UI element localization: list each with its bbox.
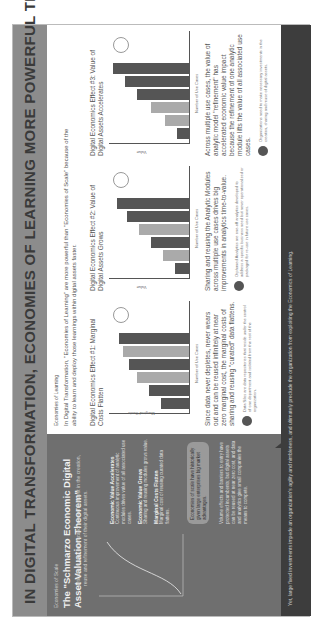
title-band: IN DIGITAL TRANSFORMATION, ECONOMIES OF … [13,25,47,616]
economies-of-scale-panel: Economies of Scale The "Schmarzo Economi… [47,434,311,616]
learning-kicker: Economies of Learning [53,28,59,426]
value-grows-chart: Value Number of Use Cases [109,166,190,279]
rotated-document-page: IN DIGITAL TRANSFORMATION, ECONOMIES OF … [12,24,310,617]
effect-note: Orphaned Analytics are one-off analytics… [234,166,249,291]
note-text: Organizations need to make necessary inv… [258,39,268,142]
theorem-subtitle: articulates why organizations need to in… [75,446,89,586]
effect-title: Digital Economics Effect #1: Marginal Co… [89,301,105,426]
x-axis-label: Number of Use Cases [194,209,199,248]
y-axis-label: Value [137,150,147,155]
note-text: Sharing and reusing modules grows value. [143,439,148,524]
dollar-icon [258,146,268,156]
y-axis-label: Marginal Costs [128,411,155,416]
note-text: Continuous improvement of analytic modul… [115,440,132,524]
effect-title: Digital Economics Effect #3: Value of Di… [89,31,105,156]
theorem-notes: Economic Value AcceleratesContinuous imp… [105,438,171,524]
effect-3: Digital Economics Effect #3: Value of Di… [89,31,268,156]
scale-kicker: Economies of Scale [53,564,59,608]
x-axis-label: Number of Use Cases [194,344,199,383]
marginal-cost-chart: Marginal Costs Number of Use Cases [109,301,190,414]
analytics-icon [234,281,244,291]
badge-icon [113,307,129,323]
scale-body: Volume effects and barriers to entry hav… [219,440,249,524]
note-text: Data Silos are data repositories that re… [242,305,257,412]
effect-note: Organizations need to make necessary inv… [258,31,268,156]
y-axis-label: Value [137,285,147,290]
page-title: IN DIGITAL TRANSFORMATION, ECONOMIES OF … [21,0,38,604]
scale-callout: Economies of scale have historically giv… [187,442,209,524]
economies-of-learning-panel: Economies of Learning In Digital Transfo… [53,28,281,426]
badge-icon [113,172,129,188]
value-curve-chart [97,532,189,602]
note-text: Marginal cost of reusing curated data fl… [159,450,170,524]
note-text: Orphaned Analytics are one-off analytics… [234,167,249,277]
effect-1: Digital Economics Effect #1: Marginal Co… [89,301,257,426]
learning-intro: In Digital Transformation, "Economies of… [63,126,78,426]
effect-description: Since data never depletes, never wears o… [204,301,236,426]
x-axis-label: Number of Use Cases [194,74,199,113]
effect-description: Sharing and reusing the Analytic Modules… [204,166,228,291]
effect-note: Data Silos are data repositories that re… [242,301,257,426]
badge-icon [113,37,129,53]
footer-banner: Yet, large fixed investments impede an o… [281,25,311,616]
effect-title: Digital Economics Effect #2: Value of Di… [89,166,105,291]
database-icon [242,416,252,426]
effect-2: Digital Economics Effect #2: Value of Di… [89,166,249,291]
value-accelerates-chart: Value Number of Use Cases [109,31,190,144]
effect-description: Across multiple use cases, the value of … [204,31,252,156]
